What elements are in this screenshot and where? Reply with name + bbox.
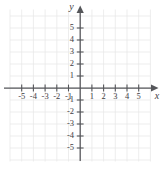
y-tick-label: -2 — [67, 106, 74, 116]
x-tick-label: -4 — [30, 91, 38, 101]
y-tick-label: 5 — [70, 22, 74, 32]
x-tick-label: -5 — [18, 91, 25, 101]
x-tick-label: 5 — [137, 91, 141, 101]
x-tick-label: -2 — [53, 91, 60, 101]
y-tick-label: -4 — [67, 130, 75, 140]
y-tick-label: 4 — [70, 34, 75, 44]
y-tick-label: 3 — [70, 46, 74, 56]
x-axis-label: x — [154, 90, 160, 101]
y-axis-label: y — [68, 1, 74, 12]
y-axis-arrow-icon — [77, 6, 84, 14]
y-tick-label: 1 — [70, 70, 74, 80]
coordinate-plane-svg: -5 -4 -3 -2 -1 1 2 3 4 5 5 4 3 2 1 -1 -2… — [0, 0, 163, 171]
y-tick-label: -5 — [67, 142, 74, 152]
y-tick-label: 2 — [70, 58, 74, 68]
coordinate-plane-figure: -5 -4 -3 -2 -1 1 2 3 4 5 5 4 3 2 1 -1 -2… — [0, 0, 163, 171]
x-tick-label: 3 — [113, 91, 117, 101]
y-tick-label: -1 — [67, 94, 74, 104]
y-tick-label: -3 — [67, 118, 74, 128]
x-tick-label: 2 — [101, 91, 105, 101]
x-tick-label: 1 — [90, 91, 94, 101]
x-tick-label: -3 — [42, 91, 49, 101]
